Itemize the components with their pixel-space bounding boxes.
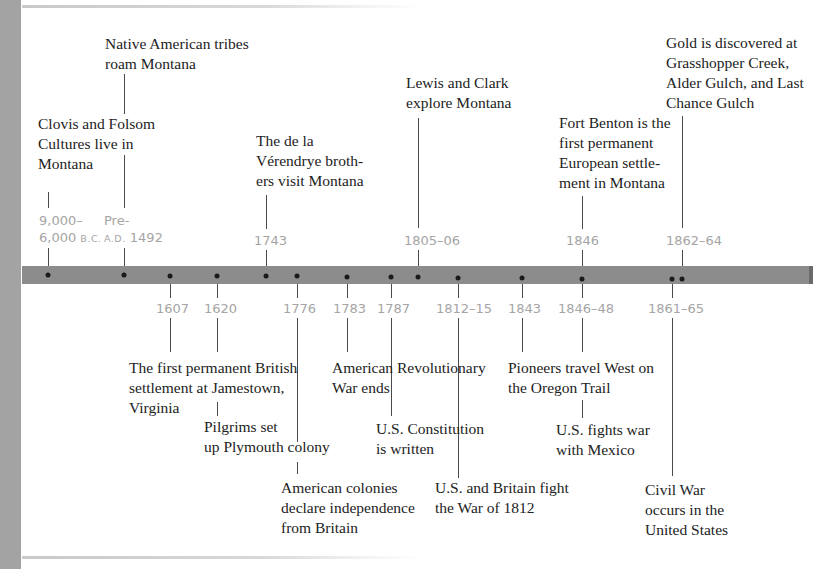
connector-line <box>582 196 583 229</box>
connector-line <box>682 116 683 228</box>
timeline-dot <box>295 274 300 279</box>
date-label: 1783 <box>333 300 366 317</box>
date-label: 1776 <box>283 300 316 317</box>
event-text: The de laVérendrye broth-ers visit Monta… <box>256 131 364 191</box>
side-strip <box>0 0 21 569</box>
timeline-dot <box>416 275 421 280</box>
event-text: U.S. fights warwith Mexico <box>556 420 650 460</box>
event-text: Clovis and FolsomCultures live inMontana <box>38 114 155 174</box>
date-label: 1846 <box>566 232 599 249</box>
event-text: Fort Benton is thefirst permanentEuropea… <box>559 113 671 193</box>
date-label: 1861–65 <box>648 300 704 317</box>
timeline-dot <box>456 276 461 281</box>
date-label: 1812–15 <box>436 300 492 317</box>
date-label: 9,000– 6,000 B.C. <box>39 212 102 247</box>
date-label: 1607 <box>156 300 189 317</box>
timeline-dot <box>168 274 173 279</box>
timeline-dot <box>670 277 675 282</box>
date-label: 1620 <box>204 300 237 317</box>
timeline-dot <box>264 274 269 279</box>
event-text: Civil Waroccurs in theUnited States <box>645 480 728 540</box>
timeline-dot <box>46 273 51 278</box>
connector-line <box>124 74 125 114</box>
date-label: 1805–06 <box>404 232 460 249</box>
connector-line <box>672 318 673 476</box>
event-text: U.S. and Britain fightthe War of 1812 <box>435 478 569 518</box>
event-text: Native American tribesroam Montana <box>105 34 249 74</box>
connector-line <box>582 318 583 352</box>
connector-line <box>522 318 523 352</box>
date-label: 1787 <box>377 300 410 317</box>
connector-line <box>48 192 49 208</box>
timeline-dot <box>580 277 585 282</box>
event-text: Pilgrims setup Plymouth colony <box>204 417 330 457</box>
event-text: Lewis and Clarkexplore Montana <box>406 73 511 113</box>
date-label: Pre- A.D. 1492 <box>104 212 163 247</box>
connector-line <box>170 318 171 352</box>
connector-line <box>347 318 348 352</box>
event-text: American coloniesdeclare independencefro… <box>281 478 415 538</box>
connector-line <box>582 400 583 418</box>
connector-line <box>266 195 267 229</box>
connector-line <box>418 118 419 228</box>
timeline-dot <box>389 275 394 280</box>
event-text: The first permanent Britishsettlement at… <box>129 358 297 418</box>
event-text: American RevolutionaryWar ends <box>332 358 486 398</box>
date-label: 1846–48 <box>558 300 614 317</box>
date-label: 1743 <box>254 232 287 249</box>
date-label: 1843 <box>508 300 541 317</box>
timeline-dot <box>680 277 685 282</box>
timeline-dot <box>520 276 525 281</box>
timeline-dot <box>122 273 127 278</box>
timeline-dot <box>345 275 350 280</box>
connector-line <box>297 462 298 474</box>
date-label: 1862–64 <box>666 232 722 249</box>
connector-line <box>217 318 218 352</box>
event-text: Gold is discovered atGrasshopper Creek,A… <box>666 33 804 113</box>
event-text: Pioneers travel West onthe Oregon Trail <box>508 358 654 398</box>
timeline-dot <box>215 274 220 279</box>
event-text: U.S. Constitutionis written <box>376 419 484 459</box>
bottom-rule <box>22 556 422 559</box>
top-rule <box>22 5 422 8</box>
